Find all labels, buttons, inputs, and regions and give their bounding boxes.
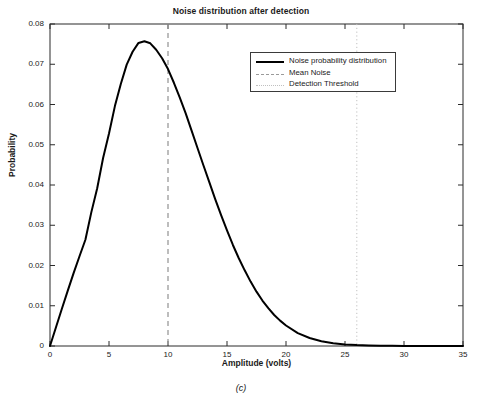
x-axis-label: Amplitude (volts) (50, 358, 463, 368)
x-axis-tick-label: 25 (330, 350, 360, 359)
figure-panel: Noise distribution after detection Proba… (0, 0, 482, 408)
x-axis-tick-label: 0 (35, 350, 65, 359)
y-axis-tick-label: 0.07 (4, 59, 44, 68)
legend-swatch-solid-line-icon (256, 61, 284, 63)
legend-swatch-dashed-line-icon (256, 74, 284, 75)
x-axis-tick-label: 5 (94, 350, 124, 359)
legend-label: Detection Threshold (289, 79, 359, 88)
legend-label: Noise probability distribution (289, 56, 387, 65)
x-axis-tick-label: 35 (448, 350, 478, 359)
legend-label: Mean Noise (289, 68, 331, 77)
x-axis-tick-label: 10 (153, 350, 183, 359)
y-axis-tick-label: 0.04 (4, 180, 44, 189)
y-axis-tick-label: 0.08 (4, 19, 44, 28)
legend: Noise probability distribution Mean Nois… (250, 52, 396, 92)
y-axis-tick-label: 0.02 (4, 261, 44, 270)
figure-caption: (c) (0, 383, 482, 393)
x-axis-tick-label: 30 (389, 350, 419, 359)
legend-item-detection-threshold: Detection Threshold (251, 79, 397, 91)
legend-item-noise-distribution: Noise probability distribution (251, 56, 397, 68)
y-axis-tick-label: 0 (4, 341, 44, 350)
x-axis-tick-label: 15 (212, 350, 242, 359)
y-axis-tick-label: 0.05 (4, 140, 44, 149)
plot-canvas (0, 0, 482, 408)
x-axis-tick-label: 20 (271, 350, 301, 359)
y-axis-tick-label: 0.03 (4, 220, 44, 229)
legend-swatch-dotted-line-icon (256, 85, 284, 86)
y-axis-tick-label: 0.06 (4, 100, 44, 109)
y-axis-tick-label: 0.01 (4, 301, 44, 310)
